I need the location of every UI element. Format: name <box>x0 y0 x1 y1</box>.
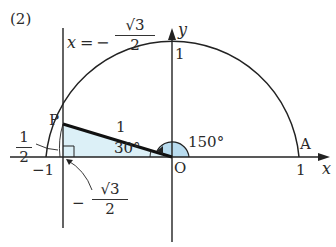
height-denominator: 2 <box>19 150 29 165</box>
foot-numerator: √3 <box>100 182 119 197</box>
y-axis-label: y <box>178 22 187 38</box>
equation-eq: = <box>80 35 93 51</box>
height-numerator: 1 <box>19 130 29 145</box>
angle-150-label: 150° <box>188 135 224 150</box>
angle-30-label: 30° <box>114 141 141 156</box>
y-tick-one: 1 <box>175 47 185 62</box>
point-a-label: A <box>300 137 311 152</box>
equation-lhs: x <box>67 35 76 51</box>
problem-label: (2) <box>10 12 31 27</box>
height-fraction: 1 2 <box>16 130 32 165</box>
equation-numerator: √3 <box>125 18 144 33</box>
equation-denominator: 2 <box>130 38 140 53</box>
foot-leader-line <box>67 160 92 190</box>
foot-fraction: √3 2 <box>92 182 128 217</box>
origin-label: O <box>174 161 186 176</box>
y-axis-arrow-icon <box>168 28 176 40</box>
x-tick-one: 1 <box>296 163 306 178</box>
point-p-label: P <box>49 113 59 128</box>
x-tick-neg-one: −1 <box>32 163 54 178</box>
foot-denominator: 2 <box>105 202 115 217</box>
segment-op-label: 1 <box>116 120 126 135</box>
foot-sign: − <box>72 196 85 211</box>
equation-fraction: √3 2 <box>115 18 155 53</box>
foot-leader-arrow-icon <box>66 159 73 165</box>
x-axis-label: x <box>322 161 331 177</box>
equation-sign: − <box>96 35 109 51</box>
